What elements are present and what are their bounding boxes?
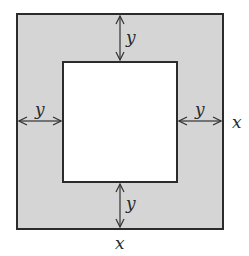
outer-side-label-bottom: x (115, 233, 125, 253)
outer-side-label-right: x (232, 112, 242, 132)
top-gap-label: y (125, 27, 136, 47)
bottom-gap-label: y (125, 193, 136, 213)
right-gap-label: y (194, 99, 205, 119)
left-gap-label: y (34, 99, 45, 119)
inner-square (63, 62, 177, 182)
border-diagram: y y y y x x (0, 0, 249, 256)
